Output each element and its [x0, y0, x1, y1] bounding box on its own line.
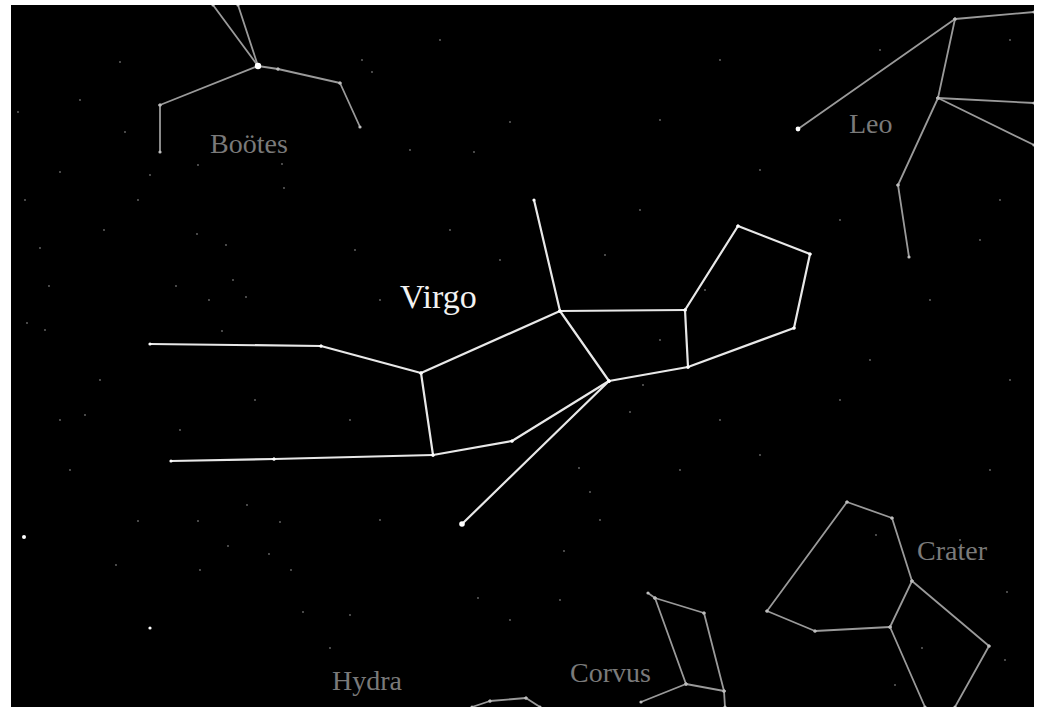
faint-star	[875, 534, 877, 536]
faint-star	[24, 199, 26, 201]
faint-star	[1009, 39, 1011, 41]
faint-star	[197, 520, 199, 522]
label-crater: Crater	[917, 537, 987, 565]
faint-star	[115, 564, 117, 566]
faint-star	[879, 49, 881, 51]
faint-star	[59, 171, 61, 173]
faint-star	[1004, 659, 1006, 661]
bright-stars	[22, 63, 800, 630]
faint-star	[439, 39, 441, 41]
bright-star	[255, 63, 261, 69]
faint-star	[354, 249, 356, 251]
faint-star	[124, 131, 126, 133]
constellation-leo	[796, 10, 1034, 258]
faint-star	[44, 329, 46, 331]
faint-star	[17, 111, 19, 113]
faint-star	[839, 219, 841, 221]
faint-star	[254, 399, 256, 401]
label-bootes: Boötes	[210, 130, 288, 158]
faint-star	[361, 59, 363, 61]
faint-star	[979, 239, 981, 241]
faint-star	[1006, 591, 1008, 593]
faint-star	[290, 569, 292, 571]
faint-star	[704, 289, 706, 291]
faint-star	[246, 504, 248, 506]
faint-star	[409, 149, 411, 151]
label-leo: Leo	[849, 110, 893, 138]
faint-star	[99, 379, 101, 381]
faint-star	[227, 545, 229, 547]
faint-star	[839, 399, 841, 401]
faint-star	[759, 169, 761, 171]
faint-star	[599, 519, 601, 521]
faint-star	[894, 684, 896, 686]
faint-star	[659, 119, 661, 121]
faint-star	[199, 569, 201, 571]
faint-star	[79, 99, 81, 101]
faint-star	[379, 519, 381, 521]
faint-star	[659, 339, 661, 341]
constellation-corvus	[639, 591, 726, 707]
bright-star	[459, 521, 465, 527]
faint-star	[509, 619, 511, 621]
faint-star	[642, 384, 644, 386]
faint-star	[137, 520, 139, 522]
faint-star	[559, 599, 561, 601]
faint-star	[589, 491, 591, 493]
label-virgo: Virgo	[400, 280, 477, 314]
faint-star	[477, 597, 479, 599]
faint-star	[221, 330, 223, 332]
faint-star	[232, 279, 234, 281]
faint-star	[929, 299, 931, 301]
faint-star	[69, 469, 71, 471]
faint-star	[371, 71, 373, 73]
constellation-hydra	[470, 696, 541, 707]
faint-star	[473, 151, 475, 153]
faint-star	[869, 359, 871, 361]
faint-star	[999, 199, 1001, 201]
faint-star	[175, 285, 177, 287]
faint-star	[245, 296, 247, 298]
faint-star	[283, 187, 285, 189]
faint-star	[302, 611, 304, 613]
faint-star	[629, 411, 631, 413]
faint-star	[679, 469, 681, 471]
faint-star	[103, 229, 105, 231]
faint-star	[604, 254, 606, 256]
faint-star	[208, 299, 210, 301]
faint-star	[1009, 379, 1011, 381]
constellation-line-layer	[148, 5, 1034, 707]
faint-star	[59, 419, 61, 421]
bright-star	[796, 127, 801, 132]
faint-star	[509, 121, 511, 123]
faint-star	[563, 550, 565, 552]
faint-star	[279, 521, 281, 523]
label-corvus: Corvus	[570, 659, 651, 687]
faint-star	[26, 322, 28, 324]
faint-star	[84, 414, 86, 416]
faint-star	[39, 247, 41, 249]
faint-star	[329, 647, 331, 649]
faint-star	[196, 233, 198, 235]
star-chart: Virgo Boötes Leo Crater Corvus Hydra	[11, 5, 1034, 707]
faint-star	[48, 285, 50, 287]
faint-star	[379, 299, 381, 301]
label-hydra: Hydra	[332, 667, 402, 695]
faint-star	[119, 61, 121, 63]
faint-star	[759, 454, 761, 456]
faint-star	[499, 259, 501, 261]
faint-star	[179, 429, 181, 431]
faint-star	[719, 59, 721, 61]
faint-star	[921, 647, 923, 649]
faint-star	[197, 164, 199, 166]
faint-star	[639, 209, 641, 211]
faint-star	[578, 467, 580, 469]
faint-star	[719, 419, 721, 421]
faint-star	[225, 244, 227, 246]
constellation-crater	[765, 500, 990, 707]
faint-star	[989, 469, 991, 471]
bright-star	[22, 535, 26, 539]
faint-star	[449, 229, 451, 231]
faint-star	[349, 419, 351, 421]
faint-star	[149, 174, 151, 176]
